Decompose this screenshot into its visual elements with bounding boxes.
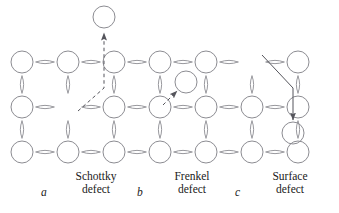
lattice-atom (195, 141, 217, 163)
lattice-bonds-group (20, 60, 299, 153)
lattice-atom (195, 51, 217, 73)
lattice-atom (103, 51, 125, 73)
frenkel-defect-group (163, 71, 197, 105)
lattice-atom (149, 51, 171, 73)
surface-defect-group (262, 55, 304, 144)
vertical-bond (204, 121, 207, 138)
lattice-atom (149, 141, 171, 163)
vertical-bond (250, 76, 253, 93)
lattice-atom (11, 51, 33, 73)
frenkel-interstitial-atom (175, 71, 197, 93)
horizontal-bond (266, 150, 284, 153)
horizontal-bond (174, 150, 192, 153)
horizontal-bond (174, 60, 192, 63)
lattice-atom (241, 96, 263, 118)
horizontal-bond (128, 60, 146, 63)
horizontal-bond (266, 105, 284, 108)
vertical-bond (204, 76, 207, 93)
horizontal-bond (36, 60, 54, 63)
schottky-escaped-atom (93, 6, 115, 28)
vertical-bond (112, 76, 115, 93)
vertical-bond (158, 76, 161, 93)
horizontal-bond (220, 60, 238, 63)
vertical-bond (20, 76, 23, 93)
lattice-atom (195, 96, 217, 118)
vertical-bond (20, 121, 23, 138)
surface-displaced-atom (282, 122, 304, 144)
horizontal-bond (36, 105, 54, 108)
lattice-atom (149, 96, 171, 118)
horizontal-bond (220, 150, 238, 153)
lattice-atom (241, 141, 263, 163)
vertical-bond (112, 121, 115, 138)
schottky-defect-group (78, 6, 115, 111)
lattice-atom (57, 51, 79, 73)
lattice-atom (287, 141, 309, 163)
lattice-atom (57, 141, 79, 163)
horizontal-bond (220, 105, 238, 108)
horizontal-bond (174, 105, 192, 108)
lattice-atom (103, 96, 125, 118)
surface-migration-arrow (262, 55, 293, 120)
schottky-migration-arrow (78, 33, 104, 111)
vertical-bond (158, 121, 161, 138)
horizontal-bond (128, 105, 146, 108)
defect-diagram-figure: a b c Schottky defect Frenkel defect Sur… (0, 0, 339, 213)
vertical-bond (66, 76, 69, 93)
lattice-atom (11, 96, 33, 118)
lattice-atom (287, 96, 309, 118)
vertical-bond (296, 76, 299, 93)
lattice-atom (11, 141, 33, 163)
lattice-diagram-canvas (0, 0, 339, 213)
horizontal-bond (128, 150, 146, 153)
vertical-bond (66, 121, 69, 138)
lattice-atom (103, 141, 125, 163)
lattice-atom (287, 51, 309, 73)
horizontal-bond (36, 150, 54, 153)
vertical-bond (250, 121, 253, 138)
horizontal-bond (82, 150, 100, 153)
horizontal-bond (82, 60, 100, 63)
lattice-atoms-group (11, 51, 309, 163)
horizontal-bond (82, 105, 100, 108)
